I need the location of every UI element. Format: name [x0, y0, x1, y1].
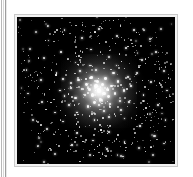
star-point [82, 22, 83, 23]
star-point [94, 149, 96, 151]
star-point [27, 93, 29, 95]
star-point [112, 142, 113, 143]
star-point [76, 144, 78, 146]
star-point [78, 55, 80, 57]
star-point [60, 119, 62, 121]
star-point [89, 125, 90, 126]
star-point [159, 67, 160, 68]
star-point [117, 85, 119, 87]
star-point [53, 134, 55, 136]
star-point [91, 69, 93, 71]
star-point [100, 102, 101, 103]
star-point [117, 154, 119, 156]
sky-haze [17, 17, 175, 164]
star-point [74, 73, 75, 74]
star-point [156, 112, 157, 113]
star-point [53, 41, 54, 42]
star-point [161, 107, 162, 108]
star-point [125, 147, 126, 148]
star-point [110, 69, 111, 70]
star-point [150, 81, 152, 83]
star-point [80, 57, 82, 59]
star-point [104, 77, 107, 80]
star-point [44, 58, 45, 59]
star-point [98, 86, 99, 87]
star-point [115, 115, 116, 116]
globular-cluster-photo [17, 17, 175, 164]
star-point [145, 63, 146, 64]
star-point [158, 52, 159, 53]
star-point [154, 81, 156, 83]
star-point [75, 36, 76, 37]
star-point [107, 125, 108, 126]
star-point [155, 110, 156, 111]
star-point [68, 104, 70, 106]
star-point [100, 129, 101, 130]
star-point [128, 38, 129, 39]
star-point [153, 135, 155, 137]
star-point [76, 132, 78, 134]
star-point [99, 100, 101, 102]
star-point [95, 90, 96, 91]
star-point [142, 28, 143, 29]
star-point [94, 149, 95, 150]
star-point [140, 117, 141, 118]
star-point [44, 93, 45, 94]
star-point [169, 96, 170, 97]
star-point [161, 67, 162, 68]
star-point [91, 38, 92, 39]
star-point [74, 97, 76, 99]
star-point [105, 147, 107, 149]
star-point [99, 98, 100, 99]
star-point [75, 137, 77, 139]
star-point [76, 118, 78, 120]
star-point [69, 22, 70, 23]
star-point [36, 80, 37, 81]
star-point [117, 74, 118, 75]
star-point [101, 23, 102, 24]
star-point [170, 64, 171, 65]
star-point [47, 25, 49, 27]
star-point [86, 48, 88, 50]
star-point [146, 117, 147, 118]
star-point [21, 87, 23, 89]
star-point [44, 130, 45, 131]
star-point [94, 119, 96, 121]
star-point [172, 70, 173, 71]
star-point [93, 25, 95, 27]
star-point [155, 72, 156, 73]
star-point [35, 31, 37, 33]
star-point [31, 20, 32, 21]
star-point [156, 61, 157, 62]
star-point [80, 135, 81, 136]
star-point [109, 125, 111, 127]
star-point [18, 26, 19, 27]
star-point [75, 62, 77, 64]
star-point [74, 104, 76, 106]
star-point [108, 131, 110, 133]
star-point [67, 150, 68, 151]
star-point [114, 92, 117, 95]
star-point [75, 39, 76, 40]
star-point [152, 37, 153, 38]
star-point [89, 65, 91, 67]
star-point [120, 25, 122, 27]
star-point [153, 126, 154, 127]
star-point [60, 134, 61, 135]
star-point [23, 160, 24, 161]
star-point [161, 113, 163, 115]
star-point [94, 80, 96, 82]
star-point [37, 74, 38, 75]
star-point [28, 62, 29, 63]
star-point [133, 103, 134, 104]
star-point [149, 106, 150, 107]
star-point [113, 73, 114, 74]
star-point [148, 89, 149, 90]
star-point [49, 33, 51, 35]
star-point [156, 93, 157, 94]
star-point [60, 110, 61, 111]
star-point [92, 66, 93, 67]
star-point [91, 93, 94, 96]
star-point [144, 115, 145, 116]
star-point [165, 82, 166, 83]
